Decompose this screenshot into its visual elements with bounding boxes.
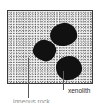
- xenolith-diagram: xenolith igneous rock: [0, 0, 100, 103]
- igneous-rock-frame: [7, 10, 93, 84]
- label-igneous-rock: igneous rock: [13, 98, 50, 103]
- leader-line-igneous-rock: [28, 58, 29, 98]
- leader-line-xenolith: [63, 71, 64, 90]
- label-xenolith: xenolith: [68, 87, 90, 94]
